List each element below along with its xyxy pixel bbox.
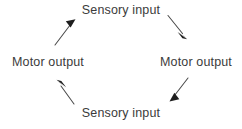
arrow-top-left-head-icon: [66, 19, 76, 27]
node-label-sensory-input-bottom: Sensory input: [0, 107, 242, 120]
arrow-top-left-shaft: [55, 25, 71, 46]
arrow-top-left: [55, 19, 76, 45]
node-label-sensory-input-top: Sensory input: [0, 4, 242, 17]
arrow-bottom-right-shaft: [175, 78, 189, 96]
arrow-bottom-right-head-icon: [170, 93, 180, 102]
node-label-motor-output-right: Motor output: [160, 56, 232, 69]
cycle-diagram: Sensory input Motor output Sensory input…: [0, 0, 242, 129]
arrow-bottom-right: [170, 78, 189, 102]
arrow-bottom-left: [57, 80, 75, 104]
arrow-top-right: [168, 16, 187, 40]
arrow-top-right-shaft: [168, 16, 183, 34]
node-label-motor-output-left: Motor output: [12, 56, 84, 69]
arrow-bottom-left-shaft: [61, 86, 74, 104]
